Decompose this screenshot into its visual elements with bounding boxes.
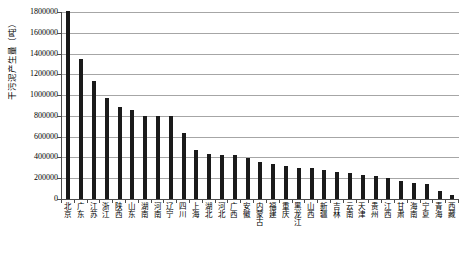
y-axis-tick-label: 1800000 <box>14 8 58 16</box>
x-axis-tick-mark <box>458 199 459 203</box>
bar-slot <box>100 12 113 199</box>
bar-slot <box>75 12 88 199</box>
bar[interactable] <box>246 158 250 199</box>
bar[interactable] <box>297 168 301 199</box>
plot-area <box>61 12 459 200</box>
bar-series <box>62 12 459 199</box>
x-axis-tick-label: 辽宁 <box>163 203 176 219</box>
bar[interactable] <box>386 178 390 199</box>
y-axis-tick-labels: 0200000400000600000800000100000012000001… <box>14 0 58 205</box>
x-axis-tick-label: 陕西 <box>112 203 125 219</box>
bar[interactable] <box>66 11 70 199</box>
bar-slot <box>88 12 101 199</box>
bar[interactable] <box>79 59 83 199</box>
x-axis-tick-label: 贵州 <box>368 203 381 219</box>
bar-slot <box>241 12 254 199</box>
bar-slot <box>446 12 459 199</box>
bar-slot <box>292 12 305 199</box>
bar-slot <box>190 12 203 199</box>
x-axis-tick-label: 江苏 <box>87 203 100 219</box>
x-axis-tick-label: 吉林 <box>330 203 343 219</box>
x-axis-tick-label: 湖北 <box>202 203 215 219</box>
bar[interactable] <box>310 168 314 199</box>
bar[interactable] <box>361 175 365 199</box>
bar[interactable] <box>374 176 378 199</box>
x-axis-tick-label: 宁夏 <box>419 203 432 219</box>
bar-slot <box>177 12 190 199</box>
bar[interactable] <box>271 164 275 199</box>
bar[interactable] <box>182 133 186 199</box>
y-axis-tick-label: 1200000 <box>14 70 58 78</box>
bar-slot <box>395 12 408 199</box>
bar[interactable] <box>92 81 96 199</box>
bar-slot <box>305 12 318 199</box>
bar-slot <box>331 12 344 199</box>
bar-slot <box>369 12 382 199</box>
x-axis-tick-label: 江西 <box>381 203 394 219</box>
bar-slot <box>267 12 280 199</box>
bar[interactable] <box>412 183 416 199</box>
bar[interactable] <box>348 173 352 199</box>
x-axis-tick-label: 青海 <box>432 203 445 219</box>
x-axis-tick-label: 河南 <box>151 203 164 219</box>
bar-slot <box>152 12 165 199</box>
x-axis-tick-label: 内蒙古 <box>253 203 266 228</box>
bar-slot <box>113 12 126 199</box>
bar[interactable] <box>194 150 198 199</box>
x-axis-tick-label: 海南 <box>407 203 420 219</box>
x-axis-tick-label: 四川 <box>176 203 189 219</box>
bar[interactable] <box>118 107 122 199</box>
y-axis-tick-label: 1000000 <box>14 91 58 99</box>
bar-slot <box>228 12 241 199</box>
bar-slot <box>318 12 331 199</box>
bar[interactable] <box>105 98 109 199</box>
bar[interactable] <box>284 166 288 199</box>
bar-slot <box>164 12 177 199</box>
bar[interactable] <box>438 191 442 199</box>
x-axis-tick-label: 黑龙江 <box>291 203 304 228</box>
bar-slot <box>254 12 267 199</box>
y-axis-tick-label: 1600000 <box>14 29 58 37</box>
bar[interactable] <box>233 155 237 199</box>
bar[interactable] <box>130 110 134 199</box>
x-axis-tick-label: 湖南 <box>138 203 151 219</box>
bar-slot <box>216 12 229 199</box>
bar-slot <box>420 12 433 199</box>
bar-slot <box>203 12 216 199</box>
y-axis-tick-label: 800000 <box>14 112 58 120</box>
y-axis-tick-label: 400000 <box>14 153 58 161</box>
x-axis-tick-label: 山西 <box>304 203 317 219</box>
bar-slot <box>356 12 369 199</box>
x-axis-tick-label: 西藏 <box>445 203 458 219</box>
x-axis-tick-label: 甘肃 <box>394 203 407 219</box>
x-axis-tick-label: 广东 <box>74 203 87 219</box>
x-axis-tick-label: 福建 <box>266 203 279 219</box>
y-axis-tick-label: 600000 <box>14 133 58 141</box>
bar-slot <box>344 12 357 199</box>
x-axis-tick-label: 安徽 <box>240 203 253 219</box>
bar[interactable] <box>207 154 211 199</box>
x-axis-tick-labels: 北京广东江苏浙江陕西山东湖南河南辽宁四川上海湖北河北广西安徽内蒙古福建重庆黑龙江… <box>61 203 458 256</box>
bar[interactable] <box>220 155 224 199</box>
bar-slot <box>126 12 139 199</box>
x-axis-tick-label: 重庆 <box>279 203 292 219</box>
bar-slot <box>280 12 293 199</box>
bar[interactable] <box>322 170 326 199</box>
y-axis-tick-label: 0 <box>14 195 58 203</box>
x-axis-tick-label: 山东 <box>125 203 138 219</box>
y-axis-tick-label: 200000 <box>14 174 58 182</box>
bar-slot <box>139 12 152 199</box>
x-axis-tick-label: 天津 <box>355 203 368 219</box>
bar[interactable] <box>169 116 173 199</box>
bar[interactable] <box>258 162 262 199</box>
x-axis-tick-label: 河北 <box>215 203 228 219</box>
bar[interactable] <box>156 116 160 199</box>
x-axis-tick-label: 北京 <box>61 203 74 219</box>
bar[interactable] <box>399 181 403 199</box>
bar[interactable] <box>143 116 147 199</box>
bar[interactable] <box>425 184 429 199</box>
bar[interactable] <box>335 172 339 199</box>
bar-slot <box>433 12 446 199</box>
x-axis-tick-label: 新疆 <box>317 203 330 219</box>
x-axis-tick-label: 广西 <box>227 203 240 219</box>
